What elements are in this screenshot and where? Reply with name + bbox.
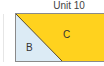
area-model-figure xyxy=(0,0,104,66)
region-c-label: C xyxy=(63,30,70,40)
region-b-label: B xyxy=(26,43,33,53)
